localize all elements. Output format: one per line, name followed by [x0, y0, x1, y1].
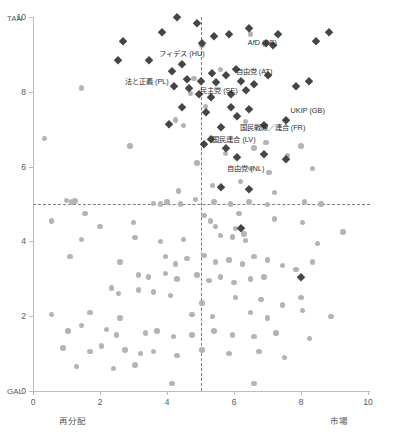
data-point-highlight [225, 30, 233, 38]
data-point [282, 355, 287, 360]
data-point [213, 259, 218, 264]
data-point [199, 300, 204, 305]
x-tick-label: 2 [88, 397, 112, 407]
data-point [60, 345, 65, 350]
data-point-highlight [202, 108, 210, 116]
point-label: UKIP (GB) [291, 106, 325, 115]
data-point [174, 276, 179, 281]
point-label: 国民戦線／連合 (FR) [240, 122, 306, 132]
data-point [230, 234, 235, 239]
y-tick-label: 6 [8, 162, 26, 172]
data-point-highlight [217, 183, 225, 191]
data-point [246, 199, 251, 204]
x-tick-mark [33, 391, 34, 395]
data-point [272, 190, 277, 195]
data-point [211, 199, 216, 204]
data-point [210, 314, 215, 319]
data-point [300, 308, 305, 313]
data-point [298, 295, 303, 300]
data-point [116, 291, 121, 296]
data-point [132, 235, 137, 240]
data-point [79, 237, 84, 242]
data-point-highlight [165, 120, 173, 128]
data-point [181, 237, 186, 242]
data-point [218, 67, 223, 72]
data-point [143, 330, 148, 335]
data-point-highlight [178, 60, 186, 68]
data-point [184, 256, 189, 261]
data-point [146, 274, 151, 279]
data-point [261, 274, 266, 279]
data-point-highlight [297, 273, 305, 281]
x-tick-mark [167, 391, 168, 395]
data-point-highlight [312, 37, 320, 45]
data-point [236, 211, 241, 216]
data-point [158, 201, 163, 206]
data-point [138, 351, 143, 356]
data-point [213, 224, 218, 229]
data-point-highlight [114, 56, 122, 64]
data-point [158, 239, 163, 244]
data-point [49, 312, 54, 317]
data-point [173, 117, 178, 122]
data-point [122, 347, 127, 352]
data-point [218, 233, 223, 238]
data-point-highlight [305, 77, 313, 85]
x-axis-line [33, 391, 370, 392]
x-tick-label: 8 [289, 397, 313, 407]
x-tick-mark [368, 391, 369, 395]
x-axis-right-pole-label: 市場 [330, 414, 348, 426]
data-point [272, 216, 277, 221]
data-point [194, 160, 199, 165]
data-point [132, 362, 137, 367]
data-point-highlight [210, 32, 218, 40]
data-point [169, 381, 174, 386]
data-point-highlight [170, 82, 178, 90]
point-label: 自由党 (AT) [236, 66, 273, 76]
point-label: AfD (DE) [248, 38, 277, 47]
data-point-highlight [242, 86, 250, 94]
data-point [174, 353, 179, 358]
data-point [318, 201, 323, 206]
data-point [233, 295, 238, 300]
data-point [293, 267, 298, 272]
data-point [210, 183, 215, 188]
data-point [298, 143, 303, 148]
y-tick-label: 10 [8, 12, 26, 22]
data-point [171, 334, 176, 339]
data-point [273, 330, 278, 335]
data-point [315, 241, 320, 246]
data-point [248, 310, 253, 315]
data-point-highlight [119, 37, 127, 45]
data-point [265, 257, 270, 262]
data-point-highlight [274, 30, 282, 38]
data-point-highlight [183, 75, 191, 83]
data-point [42, 136, 47, 141]
data-point-highlight [173, 13, 181, 21]
data-point [181, 123, 186, 128]
data-point [99, 343, 104, 348]
y-tick-mark [29, 391, 33, 392]
x-tick-label: 6 [222, 397, 246, 407]
data-point [310, 166, 315, 171]
data-point [151, 201, 156, 206]
data-point-highlight [168, 67, 176, 75]
point-label: 法と正義 (PL) [125, 76, 169, 86]
data-point [201, 213, 206, 218]
data-point-highlight [292, 82, 300, 90]
data-point [65, 328, 70, 333]
data-point [199, 347, 204, 352]
data-point [307, 336, 312, 341]
data-point-highlight [237, 77, 245, 85]
data-point [189, 332, 194, 337]
data-point [79, 85, 84, 90]
data-point-highlight [260, 150, 268, 158]
point-label: 民主党 (SE) [200, 85, 238, 95]
data-point [97, 224, 102, 229]
data-point-highlight [158, 28, 166, 36]
data-point [72, 198, 77, 203]
data-point-highlight [227, 103, 235, 111]
data-point [300, 220, 305, 225]
data-point-highlight [233, 112, 241, 120]
data-point [256, 349, 261, 354]
